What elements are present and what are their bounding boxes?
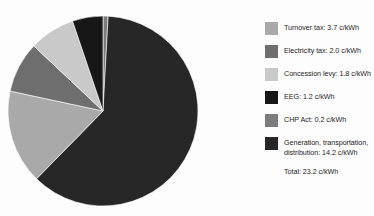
legend-item-chp-act: CHP Act: 0.2 c/kWh [265,114,374,127]
legend-label-concession-levy: Concession levy: 1.8 c/kWh [284,68,371,79]
legend-item-electricity-tax: Electricity tax: 2.0 c/kWh [265,45,374,58]
legend-swatch-generation-transportation-distribution [265,137,278,150]
legend-swatch-concession-levy [265,68,278,81]
legend-item-concession-levy: Concession levy: 1.8 c/kWh [265,68,374,81]
legend-label-generation-transportation-distribution: Generation, transportation, distribution… [284,137,368,157]
pie-chart-screenshot: Turnover tax: 3.7 c/kWh Electricity tax:… [0,0,374,216]
legend-label-eeg: EEG: 1.2 c/kWh [284,91,334,102]
legend-swatch-electricity-tax [265,45,278,58]
legend-label-electricity-tax: Electricity tax: 2.0 c/kWh [284,45,361,56]
legend-label-chp-act: CHP Act: 0.2 c/kWh [284,114,346,125]
legend-item-eeg: EEG: 1.2 c/kWh [265,91,374,104]
legend-item-generation-transportation-distribution: Generation, transportation, distribution… [265,137,374,157]
legend-swatch-eeg [265,91,278,104]
pie-chart-svg [8,16,198,208]
legend-label-turnover-tax: Turnover tax: 3.7 c/kWh [284,22,359,33]
legend-total-label: Total: 23.2 c/kWh [284,167,374,177]
legend-swatch-turnover-tax [265,22,278,35]
pie-chart [8,16,198,208]
legend-item-turnover-tax: Turnover tax: 3.7 c/kWh [265,22,374,35]
legend-swatch-chp-act [265,114,278,127]
pie-slice-group [8,16,198,206]
chart-legend: Turnover tax: 3.7 c/kWh Electricity tax:… [265,22,374,177]
